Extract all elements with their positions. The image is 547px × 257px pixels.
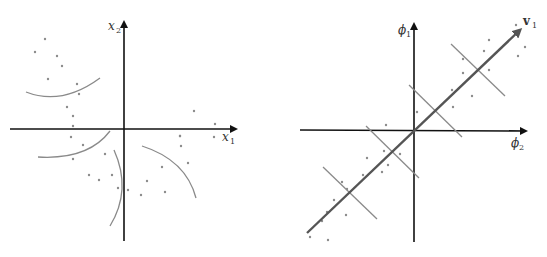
data-point bbox=[47, 78, 49, 80]
data-point bbox=[327, 239, 329, 241]
left-data-points bbox=[34, 38, 216, 196]
boundary-curve-lower-left bbox=[38, 131, 110, 157]
v1-sub: 1 bbox=[532, 21, 537, 30]
phi1-axis-sub: 1 bbox=[406, 30, 411, 39]
left-boundaries bbox=[26, 78, 196, 226]
data-point bbox=[76, 83, 78, 85]
data-point bbox=[385, 124, 387, 126]
data-point bbox=[117, 187, 119, 189]
v1-label: v bbox=[522, 14, 531, 28]
data-point bbox=[70, 136, 72, 138]
data-point bbox=[462, 72, 464, 74]
phi1-axis-label: ϕ bbox=[398, 23, 406, 37]
data-point bbox=[346, 188, 348, 190]
x1-axis-sub: 1 bbox=[230, 137, 235, 146]
data-point bbox=[488, 39, 490, 41]
data-point bbox=[66, 106, 68, 108]
data-point bbox=[44, 38, 46, 40]
figure: x 2 x 1 ϕ 1 ϕ 2 v 1 bbox=[0, 0, 547, 257]
data-point bbox=[98, 179, 100, 181]
data-point bbox=[88, 174, 90, 176]
data-point bbox=[483, 50, 485, 52]
data-point bbox=[164, 191, 166, 193]
data-point bbox=[180, 145, 182, 147]
data-point bbox=[488, 69, 490, 71]
data-point bbox=[366, 157, 368, 159]
data-point bbox=[345, 214, 347, 216]
phi2-axis-label: ϕ bbox=[511, 136, 519, 150]
data-point bbox=[161, 166, 163, 168]
data-point bbox=[61, 65, 63, 67]
data-point bbox=[104, 153, 106, 155]
data-point bbox=[333, 199, 335, 201]
data-point bbox=[362, 174, 364, 176]
data-point bbox=[56, 55, 58, 57]
data-point bbox=[82, 144, 84, 146]
data-point bbox=[127, 189, 129, 191]
data-point bbox=[72, 115, 74, 117]
x2-axis-label: x bbox=[108, 19, 115, 33]
data-point bbox=[471, 95, 473, 97]
data-point bbox=[387, 164, 389, 166]
right-panel: ϕ 1 ϕ 2 v 1 bbox=[300, 14, 537, 242]
data-point bbox=[179, 135, 181, 137]
data-point bbox=[515, 24, 517, 26]
data-point bbox=[34, 51, 36, 53]
data-point bbox=[214, 123, 216, 125]
boundary-curve-upper-left bbox=[26, 78, 100, 97]
x1-axis-label: x bbox=[222, 130, 229, 144]
data-point bbox=[78, 93, 80, 95]
boundary-curve-lower-middle bbox=[110, 150, 122, 226]
data-point bbox=[72, 125, 74, 127]
data-point bbox=[416, 111, 418, 113]
data-point bbox=[309, 236, 311, 238]
data-point bbox=[451, 89, 453, 91]
data-point bbox=[187, 162, 189, 164]
data-point bbox=[193, 110, 195, 112]
data-point bbox=[524, 46, 526, 48]
data-point bbox=[111, 174, 113, 176]
data-point bbox=[140, 194, 142, 196]
x2-axis-sub: 2 bbox=[116, 26, 121, 35]
phi2-axis-sub: 2 bbox=[519, 143, 524, 152]
data-point bbox=[341, 181, 343, 183]
data-point bbox=[72, 158, 74, 160]
data-point bbox=[517, 55, 519, 57]
data-point bbox=[462, 58, 464, 60]
boundary-curve-lower-right bbox=[142, 146, 196, 198]
data-point bbox=[213, 136, 215, 138]
left-panel: x 2 x 1 bbox=[10, 19, 236, 241]
data-point bbox=[399, 153, 401, 155]
data-point bbox=[146, 180, 148, 182]
data-point bbox=[383, 150, 385, 152]
data-point bbox=[452, 106, 454, 108]
data-point bbox=[381, 171, 383, 173]
